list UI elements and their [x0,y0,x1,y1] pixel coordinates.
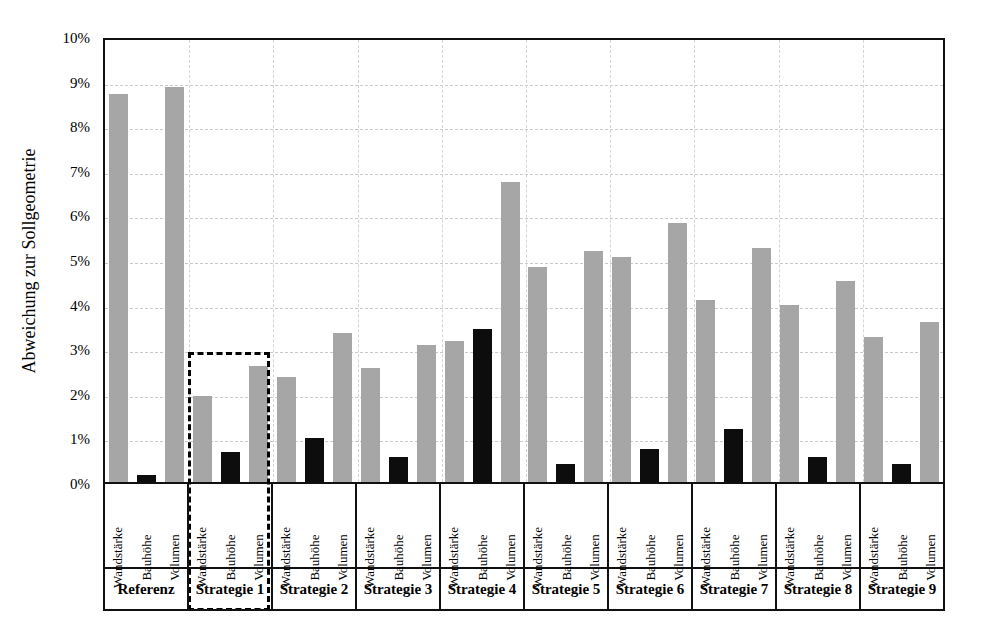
bar [752,248,771,482]
subcategory-label: Volumen [249,484,268,564]
bar [584,251,603,482]
bar [612,257,631,482]
bar [836,281,855,482]
x-axis-category-row: ReferenzStrategie 1Strategie 2Strategie … [103,569,945,611]
subcategory-label: Wandstärke [613,484,632,564]
subcategory-label: Wandstärke [781,484,800,564]
bar [640,449,659,482]
subcategory-label: Volumen [753,484,772,564]
category-label: Strategie 7 [693,569,777,609]
bar-groups [105,40,943,482]
subcategory-label: Bauhöhe [725,484,744,564]
bar [445,341,464,482]
bar-group [608,40,692,482]
bar [333,333,352,482]
category-label: Referenz [105,569,189,609]
subcategory-cell: WandstärkeBauhöheVolumen [441,484,525,567]
category-label: Strategie 4 [441,569,525,609]
subcategory-label: Volumen [669,484,688,564]
bar-group [189,40,273,482]
y-tick-label: 10% [63,30,91,47]
subcategory-label: Bauhöhe [389,484,408,564]
bar [165,87,184,482]
y-tick-label: 7% [70,163,90,180]
subcategory-label: Volumen [501,484,520,564]
bar [864,337,883,482]
bar [417,345,436,482]
y-tick-label: 1% [70,431,90,448]
bar [892,464,911,482]
category-label: Strategie 1 [189,569,273,609]
bar-group [859,40,943,482]
subcategory-label: Volumen [585,484,604,564]
subcategory-label: Wandstärke [697,484,716,564]
bar-group [356,40,440,482]
subcategory-label: Bauhöhe [557,484,576,564]
bar [193,396,212,482]
y-axis-title: Abweichung zur Sollgeometrie [14,38,44,484]
plot-area [103,38,945,484]
subcategory-label: Wandstärke [445,484,464,564]
bar-group [692,40,776,482]
category-label: Strategie 8 [777,569,861,609]
subcategory-cell: WandstärkeBauhöheVolumen [189,484,273,567]
subcategory-label: Bauhöhe [137,484,156,564]
bar [724,429,743,482]
subcategory-cell: WandstärkeBauhöheVolumen [357,484,441,567]
subcategory-label: Wandstärke [109,484,128,564]
y-tick-label: 4% [70,297,90,314]
category-label: Strategie 6 [609,569,693,609]
subcategory-cell: WandstärkeBauhöheVolumen [609,484,693,567]
bar [808,457,827,482]
y-axis-title-text: Abweichung zur Sollgeometrie [19,149,40,374]
bar [696,300,715,482]
bar [473,329,492,482]
bar-group [105,40,189,482]
bar [361,368,380,482]
y-tick-label: 2% [70,386,90,403]
bar-group [273,40,357,482]
category-label: Strategie 3 [357,569,441,609]
subcategory-cell: WandstärkeBauhöheVolumen [273,484,357,567]
y-tick-label: 3% [70,342,90,359]
y-axis-tick-labels: 0%1%2%3%4%5%6%7%8%9%10% [46,38,98,484]
bar [277,377,296,482]
subcategory-cell: WandstärkeBauhöheVolumen [693,484,777,567]
bar-group [775,40,859,482]
subcategory-label: Bauhöhe [809,484,828,564]
bar [501,182,520,482]
bar [137,475,156,482]
subcategory-cell: WandstärkeBauhöheVolumen [861,484,943,567]
bar-group [524,40,608,482]
bar [780,305,799,482]
subcategory-label: Volumen [921,484,940,564]
subcategory-cell: WandstärkeBauhöheVolumen [525,484,609,567]
bar [920,322,939,482]
subcategory-label: Wandstärke [865,484,884,564]
y-tick-label: 6% [70,208,90,225]
bar [389,457,408,482]
category-label: Strategie 5 [525,569,609,609]
bar [109,94,128,482]
subcategory-label: Wandstärke [529,484,548,564]
subcategory-label: Bauhöhe [641,484,660,564]
subcategory-label: Volumen [837,484,856,564]
subcategory-label: Volumen [165,484,184,564]
subcategory-label: Bauhöhe [305,484,324,564]
chart-figure: Abweichung zur Sollgeometrie 0%1%2%3%4%5… [0,0,985,633]
subcategory-label: Bauhöhe [221,484,240,564]
subcategory-cell: WandstärkeBauhöheVolumen [777,484,861,567]
bar [305,438,324,482]
y-tick-label: 9% [70,74,90,91]
subcategory-label: Wandstärke [193,484,212,564]
bar [249,366,268,482]
subcategory-label: Wandstärke [361,484,380,564]
category-label: Strategie 9 [861,569,943,609]
x-axis-subcategory-row: WandstärkeBauhöheVolumenWandstärkeBauhöh… [103,484,945,569]
subcategory-cell: WandstärkeBauhöheVolumen [105,484,189,567]
subcategory-label: Bauhöhe [473,484,492,564]
bar [668,223,687,482]
subcategory-label: Wandstärke [277,484,296,564]
subcategory-label: Volumen [417,484,436,564]
subcategory-label: Bauhöhe [893,484,912,564]
